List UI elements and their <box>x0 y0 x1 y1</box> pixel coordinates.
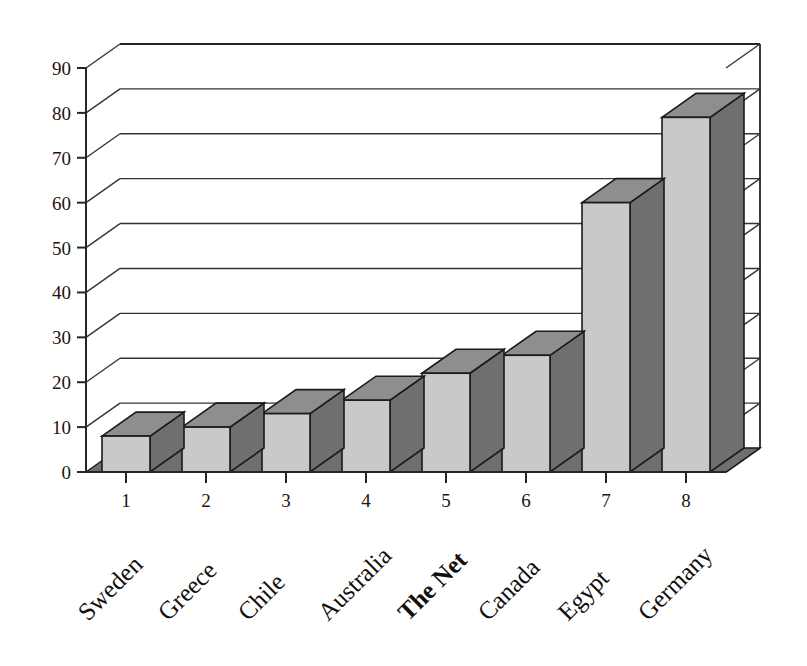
category-label-greece: Greece <box>152 556 221 625</box>
x-tick-label-8: 8 <box>681 490 691 511</box>
gridline-depth-connector <box>86 134 120 158</box>
bar-front-face <box>262 414 310 472</box>
x-tick-label-7: 7 <box>601 490 611 511</box>
bar-chart-3d: 0102030405060708090 12345678 SwedenGreec… <box>0 0 807 666</box>
bar-front-face <box>182 427 230 472</box>
gridline-depth-connector <box>86 313 120 337</box>
x-tick-label-5: 5 <box>441 490 451 511</box>
y-tick-label: 70 <box>52 148 71 169</box>
category-label-germany: Germany <box>632 540 717 625</box>
gridline-depth-connector <box>86 268 120 292</box>
category-label-canada: Canada <box>472 553 544 625</box>
x-tick-labels: 12345678 <box>121 490 691 511</box>
y-tick-label: 0 <box>62 462 72 483</box>
y-tick-label: 90 <box>52 58 71 79</box>
y-tick-label: 20 <box>52 372 71 393</box>
gridline-depth-connector <box>86 224 120 248</box>
y-tick-label: 40 <box>52 282 71 303</box>
category-label-sweden: Sweden <box>72 550 147 625</box>
gridline-depth-connector <box>86 179 120 203</box>
category-labels: SwedenGreeceChileAustraliaThe NetCanadaE… <box>72 540 717 625</box>
bar-front-face <box>342 400 390 472</box>
bar-front-face <box>582 203 630 472</box>
y-tick-label: 50 <box>52 238 71 259</box>
bar-8 <box>662 93 744 472</box>
category-label-the-net: The Net <box>392 546 472 626</box>
gridline-depth-connector <box>86 44 120 68</box>
bar-4 <box>342 376 424 472</box>
bar-front-face <box>422 373 470 472</box>
y-tick-label: 30 <box>52 327 71 348</box>
chart-container: 0102030405060708090 12345678 SwedenGreec… <box>0 0 807 666</box>
bar-side-face <box>630 179 664 472</box>
y-tick-label: 10 <box>52 417 71 438</box>
y-axis: 0102030405060708090 <box>52 58 86 483</box>
gridline-depth-connector <box>86 403 120 427</box>
gridline-depth-connector <box>86 89 120 113</box>
gridline-right-stub <box>726 44 760 68</box>
bar-front-face <box>662 117 710 472</box>
y-tick-label: 80 <box>52 103 71 124</box>
gridline-depth-connector <box>86 358 120 382</box>
x-tick-label-6: 6 <box>521 490 531 511</box>
bar-front-face <box>502 355 550 472</box>
x-tick-label-2: 2 <box>201 490 211 511</box>
bar-6 <box>502 331 584 472</box>
category-label-egypt: Egypt <box>552 564 613 625</box>
category-label-australia: Australia <box>312 542 396 626</box>
bar-series <box>102 93 744 472</box>
bar-side-face <box>710 93 744 472</box>
y-tick-label: 60 <box>52 193 71 214</box>
x-tick-label-4: 4 <box>361 490 371 511</box>
x-tick-label-3: 3 <box>281 490 291 511</box>
category-label-chile: Chile <box>232 568 289 625</box>
x-tick-label-1: 1 <box>121 490 131 511</box>
x-axis <box>77 472 726 483</box>
bar-7 <box>582 179 664 472</box>
bar-5 <box>422 349 504 472</box>
bar-front-face <box>102 436 150 472</box>
